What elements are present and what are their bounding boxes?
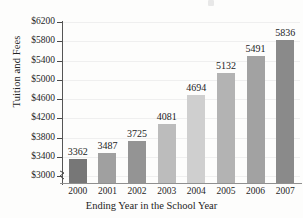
bar [276,40,294,183]
x-axis-line [60,183,302,184]
y-axis-tick [57,157,62,158]
y-axis-tick-label-text: $4200 [3,113,55,123]
y-axis-tick [57,61,62,62]
bar-value-label: 5491 [234,44,278,54]
y-axis-tick [57,118,62,119]
cropped-title-artifact [208,0,214,6]
bar [217,73,235,183]
y-axis-tick [57,138,62,139]
y-axis-tick-label: $4600 [0,94,55,104]
bar-value-label: 4081 [145,112,189,122]
gridline [63,22,300,23]
y-axis-tick [57,99,62,100]
y-axis-tick-label-text: $5000 [3,75,55,85]
axis-break-icon [58,170,67,181]
bar-value-label: 3725 [115,129,159,139]
y-axis-tick-label-text: $5800 [3,36,55,46]
bar [158,124,176,183]
bar [98,153,116,183]
y-axis-tick-label: $5400 [0,56,55,66]
y-axis-tick-label: $3000 [0,171,55,181]
bar [69,159,87,183]
tuition-bar-chart: Tuition and Fees $6200$5800$5400$5000$46… [0,0,303,218]
bar-value-label: 4694 [174,83,218,93]
y-axis-tick-label: $6200 [0,17,55,27]
y-axis-line [62,21,63,185]
x-axis-title: Ending Year in the School Year [0,200,303,211]
y-axis-tick-label-text: $3800 [3,133,55,143]
y-axis-tick-label: $3800 [0,133,55,143]
y-axis-tick-label-text: $3400 [3,152,55,162]
y-axis-tick [57,80,62,81]
bar-value-label: 5132 [204,61,248,71]
y-axis-tick-label-text: $6200 [3,17,55,27]
y-axis-tick-label: $5000 [0,75,55,85]
y-axis-tick-label: $3400 [0,152,55,162]
bar [128,141,146,183]
bar [247,56,265,183]
y-axis-tick-label: $4200 [0,113,55,123]
x-axis-tick-label: 2007 [263,186,303,196]
y-axis-tick [57,22,62,23]
bar-value-label: 5836 [263,28,303,38]
gridline [63,41,300,42]
y-axis-tick-label-text: $5400 [3,56,55,66]
y-axis-tick-label: $5800 [0,36,55,46]
bar [187,95,205,183]
bar-value-label: 3487 [85,141,129,151]
y-axis-tick-label-text: $4600 [3,94,55,104]
y-axis-tick-label-text: $3000 [3,171,55,181]
y-axis-tick [57,41,62,42]
